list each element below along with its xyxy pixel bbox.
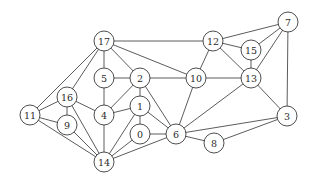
graph-diagram: 17127155210131641119063814 (0, 0, 312, 182)
node-7: 7 (278, 12, 298, 32)
node-label: 17 (98, 36, 110, 47)
node-12: 12 (203, 31, 223, 51)
edge-13-6 (176, 78, 251, 134)
edge-8-3 (214, 116, 287, 143)
node-17: 17 (94, 31, 114, 51)
node-16: 16 (57, 87, 77, 107)
node-3: 3 (277, 106, 297, 126)
node-label: 3 (284, 111, 290, 122)
node-1: 1 (130, 96, 150, 116)
node-label: 8 (211, 138, 217, 149)
node-label: 13 (245, 73, 257, 84)
node-6: 6 (166, 124, 186, 144)
edge-17-10 (104, 41, 196, 78)
node-label: 10 (190, 73, 202, 84)
node-8: 8 (204, 133, 224, 153)
node-label: 14 (98, 157, 110, 168)
graph-nodes: 17127155210131641119063814 (20, 12, 298, 172)
node-5: 5 (94, 68, 114, 88)
node-10: 10 (186, 68, 206, 88)
node-label: 5 (101, 73, 107, 84)
node-0: 0 (130, 124, 150, 144)
node-label: 15 (245, 45, 257, 56)
node-label: 0 (137, 129, 143, 140)
node-label: 12 (207, 36, 219, 47)
node-label: 1 (137, 101, 143, 112)
node-14: 14 (94, 152, 114, 172)
node-2: 2 (130, 68, 150, 88)
node-label: 16 (61, 92, 73, 103)
node-label: 2 (137, 73, 143, 84)
node-label: 6 (173, 129, 179, 140)
node-label: 7 (285, 17, 291, 28)
node-label: 9 (64, 120, 70, 131)
edge-12-7 (213, 22, 288, 41)
node-label: 11 (24, 110, 36, 121)
node-15: 15 (241, 40, 261, 60)
node-4: 4 (94, 105, 114, 125)
edge-7-3 (287, 22, 288, 116)
node-label: 4 (101, 110, 107, 121)
edge-6-3 (176, 116, 287, 134)
node-13: 13 (241, 68, 261, 88)
node-11: 11 (20, 105, 40, 125)
node-9: 9 (57, 115, 77, 135)
